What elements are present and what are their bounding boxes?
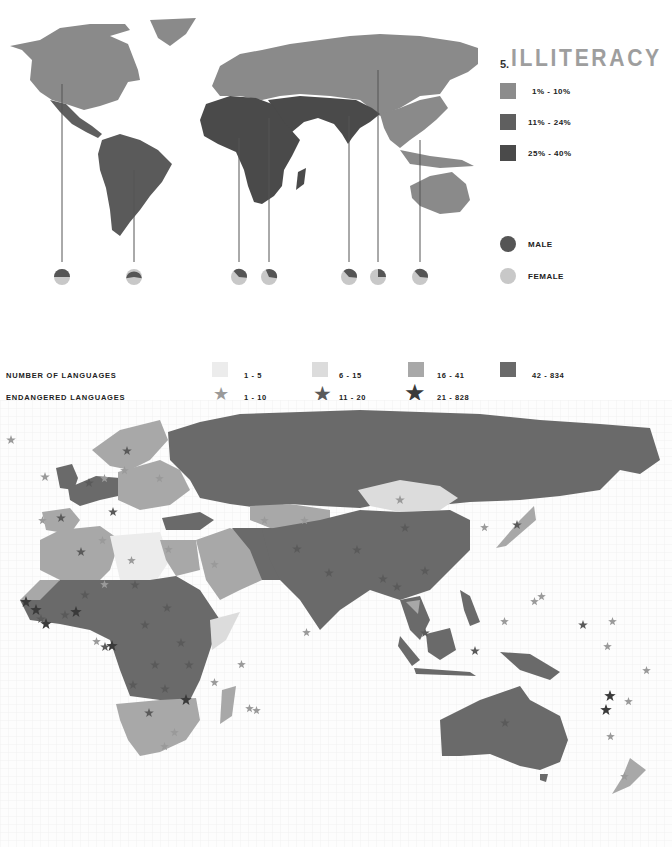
legend-item-female: FEMALE bbox=[500, 268, 564, 284]
legend-item-high: 25% - 40% bbox=[500, 145, 572, 161]
region-south-america bbox=[98, 134, 172, 236]
illiteracy-title: 5. ILLITERACY bbox=[500, 44, 672, 72]
section-number: 5. bbox=[500, 58, 509, 70]
pie-north-east-africa bbox=[261, 269, 277, 285]
legend-label: 1% - 10% bbox=[532, 87, 571, 96]
region-madagascar bbox=[296, 168, 306, 190]
gender-pie-charts bbox=[54, 269, 428, 285]
legend-swatch-42-834 bbox=[500, 362, 516, 377]
legend-label: 16 - 41 bbox=[437, 371, 465, 380]
female-dot-icon bbox=[500, 268, 516, 284]
legend-swatch bbox=[500, 83, 516, 99]
illiteracy-world-map bbox=[0, 0, 480, 300]
region-north-america bbox=[10, 24, 140, 110]
pie-oceania bbox=[412, 269, 428, 285]
region-australia bbox=[410, 172, 470, 214]
legend-item-medium: 11% - 24% bbox=[500, 114, 571, 130]
pie-north-america bbox=[54, 269, 70, 285]
pie-west-africa bbox=[231, 269, 247, 285]
legend-label: 6 - 15 bbox=[339, 371, 362, 380]
number-of-languages-label: NUMBER OF LANGUAGES bbox=[6, 371, 117, 380]
legend-swatch-16-41 bbox=[408, 362, 424, 377]
legend-swatch bbox=[500, 114, 516, 130]
region-greenland bbox=[150, 18, 196, 46]
legend-item-male: MALE bbox=[500, 236, 553, 252]
legend-label: MALE bbox=[528, 240, 553, 249]
legend-label: 1 - 5 bbox=[244, 371, 262, 380]
legend-swatch-1-5 bbox=[212, 362, 228, 377]
legend-label: 25% - 40% bbox=[528, 149, 572, 158]
pie-east-asia bbox=[370, 269, 386, 285]
pie-south-america bbox=[126, 269, 142, 285]
male-dot-icon bbox=[500, 236, 516, 252]
legend-item-low: 1% - 10% bbox=[500, 83, 571, 99]
section-title: ILLITERACY bbox=[511, 44, 662, 72]
legend-swatch-6-15 bbox=[312, 362, 328, 377]
legend-swatch bbox=[500, 145, 516, 161]
legend-label: FEMALE bbox=[528, 272, 564, 281]
languages-world-map bbox=[0, 400, 672, 847]
legend-label: 42 - 834 bbox=[532, 371, 564, 380]
legend-label: 11% - 24% bbox=[528, 118, 571, 127]
region-indonesia bbox=[400, 150, 474, 168]
pie-south-asia bbox=[341, 269, 357, 285]
